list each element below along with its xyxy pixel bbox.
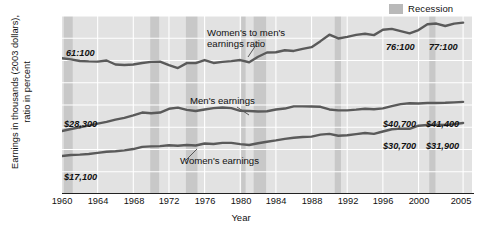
x-tick-2005: 2005 [441, 196, 481, 206]
x-tick-1972: 1972 [149, 196, 189, 206]
x-axis-line [62, 193, 474, 194]
men-2005-label: $41,400 [426, 119, 459, 129]
chart-container: Recession Earnings in thousands (2003 do… [0, 0, 482, 234]
men-start-label: $28,300 [64, 119, 97, 129]
x-tick-1984: 1984 [256, 196, 296, 206]
y-axis-title-line1: Earnings in thousands (2003 dollars), [10, 15, 20, 169]
ratio-2000-label: 76:100 [386, 42, 415, 52]
y-axis-title-line2: ratio in percent [22, 61, 32, 123]
women-start-label: $17,100 [64, 172, 97, 182]
ratio-series-label-line1: Women's to men's [207, 27, 285, 38]
ratio-start-label: 61:100 [66, 48, 95, 58]
women-2005-label: $31,900 [426, 141, 459, 151]
x-axis-title: Year [0, 212, 482, 223]
x-tick-1968: 1968 [114, 196, 154, 206]
x-tick-1976: 1976 [185, 196, 225, 206]
x-tick-1996: 1996 [363, 196, 403, 206]
ratio-series-label-line2: earnings ratio [207, 38, 265, 49]
women-series-label: Women's earnings [180, 155, 259, 166]
men-2000-label: $40,700 [383, 119, 416, 129]
x-tick-1980: 1980 [221, 196, 261, 206]
x-tick-2000: 2000 [399, 196, 439, 206]
x-tick-1964: 1964 [78, 196, 118, 206]
recession-legend-label: Recession [408, 3, 453, 14]
chart-legend: Recession [389, 3, 453, 14]
x-tick-1988: 1988 [292, 196, 332, 206]
women-2000-label: $30,700 [383, 141, 416, 151]
x-tick-1960: 1960 [42, 196, 82, 206]
men-series-label: Men's earnings [190, 95, 255, 106]
ratio-2005-label: 77:100 [429, 42, 458, 52]
recession-legend-swatch [389, 4, 403, 14]
x-tick-1992: 1992 [328, 196, 368, 206]
y-axis-title: Earnings in thousands (2003 dollars), ra… [9, 0, 33, 187]
